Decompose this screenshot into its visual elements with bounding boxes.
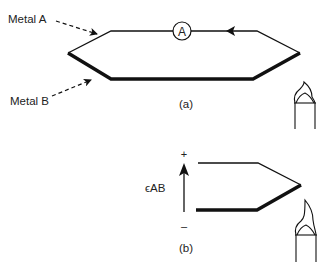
metal-b-wire-open xyxy=(196,185,301,210)
bunsen-burner-icon xyxy=(295,200,317,262)
minus-sign: – xyxy=(181,220,188,232)
metal-b-label: Metal B xyxy=(10,95,49,107)
metal-a-label: Metal A xyxy=(8,13,47,25)
part-b-label: (b) xyxy=(179,242,193,254)
arrow-up-icon xyxy=(179,163,189,212)
ammeter-label: A xyxy=(178,25,186,39)
metal-b-wire xyxy=(68,53,300,79)
metal-a-wire xyxy=(68,31,173,53)
circuit-a: A Metal A Metal B (a) xyxy=(8,13,316,129)
thermocouple-diagram: A Metal A Metal B (a) + – ϵAB (b) xyxy=(0,0,329,267)
bunsen-burner-icon xyxy=(294,82,316,129)
ammeter-icon: A xyxy=(173,22,191,40)
circuit-b: + – ϵAB (b) xyxy=(145,148,317,262)
plus-sign: + xyxy=(181,148,187,160)
part-a-label: (a) xyxy=(179,98,193,110)
metal-a-wire-open xyxy=(198,163,301,185)
metal-b-pointer xyxy=(52,80,91,96)
metal-a-pointer xyxy=(56,21,97,34)
emf-label: ϵAB xyxy=(145,182,166,194)
metal-a-wire-right xyxy=(191,31,300,53)
